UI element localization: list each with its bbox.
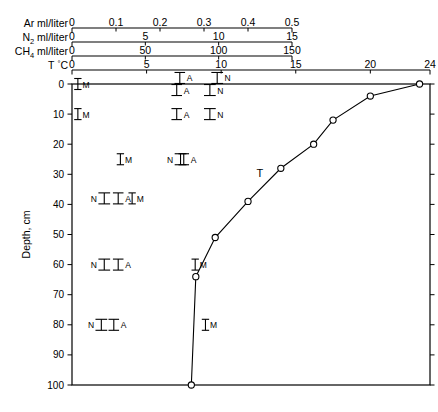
data-point-T-5 [245, 198, 251, 204]
depth-tick-label-6: 60 [53, 259, 65, 270]
axis-tick-label-n2-0: 0 [69, 30, 75, 42]
axis-tick-label-t-5: 24 [424, 58, 436, 70]
data-point-T-3 [311, 141, 317, 147]
axis-tick-label-ch4-0: 0 [69, 44, 75, 56]
series-T: T [188, 81, 422, 388]
axis-tick-label-t-3: 15 [290, 58, 302, 70]
chart-svg: Ar ml/liter00.10.20.30.40.5N2 ml/liter05… [0, 0, 438, 412]
marker-label-M-0: M [82, 80, 89, 90]
marker-label-A-4: A [125, 194, 131, 204]
axis-tick-label-ar-0: 0 [69, 16, 75, 28]
series-line-T [191, 84, 419, 385]
depth-tick-label-3: 30 [53, 169, 65, 180]
depth-axis-title: Depth, cm [20, 210, 32, 258]
axis-tick-label-ar-5: 0.5 [285, 16, 300, 28]
marker-label-N-5: N [91, 260, 97, 270]
depth-tick-label-10: 100 [47, 380, 64, 391]
marker-label-A-6: A [121, 320, 127, 330]
depth-tick-label-2: 20 [53, 139, 65, 150]
marker-label-A-2: A [184, 110, 190, 120]
axis-tick-label-t-0: 0 [69, 58, 75, 70]
marker-label-A-5: A [125, 260, 131, 270]
depth-tick-label-4: 40 [53, 199, 65, 210]
axis-tick-label-ar-3: 0.3 [197, 16, 212, 28]
depth-tick-label-0: 0 [58, 79, 64, 90]
axis-tick-label-n2-2: 10 [213, 30, 225, 42]
chart-figure: Ar ml/liter00.10.20.30.40.5N2 ml/liter05… [0, 0, 438, 412]
depth-tick-label-5: 50 [53, 229, 65, 240]
marker-label-N-2: N [217, 110, 223, 120]
axis-row-label-ch4: CH4 ml/liter [15, 45, 69, 60]
axis-tick-label-ch4-2: 100 [210, 44, 228, 56]
axis-tick-label-t-2: 10 [215, 58, 227, 70]
marker-label-N-0: N [224, 73, 230, 83]
depth-tick-label-7: 70 [53, 289, 65, 300]
axis-row-label-ar: Ar ml/liter [24, 17, 69, 29]
axis-tick-label-ar-2: 0.2 [153, 16, 168, 28]
data-point-T-6 [212, 234, 218, 240]
marker-label-A-1: A [184, 86, 190, 96]
marker-label-A-3: A [191, 155, 197, 165]
marker-label-M-1: M [82, 110, 89, 120]
axis-tick-label-t-1: 5 [144, 58, 150, 70]
series-CH4: MMMMMM [74, 79, 217, 331]
depth-tick-label-8: 80 [53, 319, 65, 330]
axis-tick-label-t-4: 20 [364, 58, 376, 70]
marker-label-M-2: M [125, 155, 132, 165]
axis-tick-label-ar-4: 0.4 [241, 16, 256, 28]
series-label-T: T [257, 167, 264, 179]
series-N2: NNNNNNN [88, 72, 231, 330]
axis-tick-label-ch4-1: 50 [139, 44, 151, 56]
data-point-T-2 [330, 117, 336, 123]
marker-label-N-3: N [167, 155, 173, 165]
data-point-T-1 [367, 93, 373, 99]
axis-tick-label-ch4-3: 150 [283, 44, 301, 56]
plot-frame [72, 84, 430, 385]
axis-tick-label-n2-3: 15 [286, 30, 298, 42]
axis-tick-label-ar-1: 0.1 [109, 16, 124, 28]
data-point-T-0 [416, 81, 422, 87]
axis-row-label-n2: N2 ml/liter [22, 31, 68, 46]
data-point-T-4 [278, 165, 284, 171]
marker-label-M-5: M [210, 320, 217, 330]
marker-label-N-6: N [88, 320, 94, 330]
depth-tick-label-1: 10 [53, 109, 65, 120]
marker-label-N-4: N [91, 194, 97, 204]
marker-label-A-0: A [187, 73, 193, 83]
axis-tick-label-n2-1: 5 [142, 30, 148, 42]
depth-tick-label-9: 90 [53, 349, 65, 360]
data-point-T-7 [193, 274, 199, 280]
axis-row-label-t: T °C [48, 59, 68, 71]
marker-label-M-4: M [200, 260, 207, 270]
marker-label-M-3: M [137, 194, 144, 204]
data-point-T-8 [188, 382, 194, 388]
marker-label-N-1: N [217, 86, 223, 96]
series-Ar: AAAAAAA [109, 72, 197, 330]
